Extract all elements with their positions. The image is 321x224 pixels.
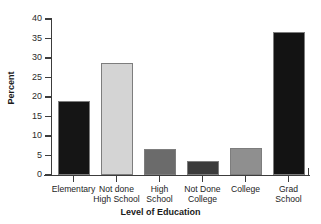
y-tick-30 [45,57,51,58]
x-axis-title: Level of Education [0,207,321,217]
x-category-label: Grad School [263,184,315,204]
bar [101,63,133,175]
y-tick-label-15: 15 [20,112,42,121]
y-tick-label-5: 5 [20,151,42,160]
y-tick-10 [45,135,51,136]
y-axis-title: Percent [6,58,16,118]
y-tick-20 [45,96,51,97]
bar [58,101,90,175]
plot-area [52,19,310,175]
y-tick-label-10: 10 [20,131,42,140]
bar-chart-figure: Percent 0510152025303540 ElementaryNot d… [0,0,321,224]
bar [187,161,219,175]
x-tick [116,176,117,182]
y-tick-25 [45,77,51,78]
x-tick [159,176,160,182]
y-tick-label-0: 0 [20,170,42,179]
y-tick-label-25: 25 [20,73,42,82]
y-tick-35 [45,38,51,39]
x-tick [288,176,289,182]
x-tick [73,176,74,182]
x-tick [245,176,246,182]
y-tick-label-35: 35 [20,34,42,43]
bar [144,149,176,175]
x-tick [202,176,203,182]
y-tick-label-20: 20 [20,92,42,101]
x-axis-line [44,175,310,176]
y-tick-40 [45,18,51,19]
bar [230,148,262,175]
y-tick-15 [45,116,51,117]
y-tick-5 [45,155,51,156]
bar [273,32,305,175]
y-tick-label-30: 30 [20,53,42,62]
y-tick-0 [45,174,51,175]
y-tick-label-40: 40 [20,14,42,23]
